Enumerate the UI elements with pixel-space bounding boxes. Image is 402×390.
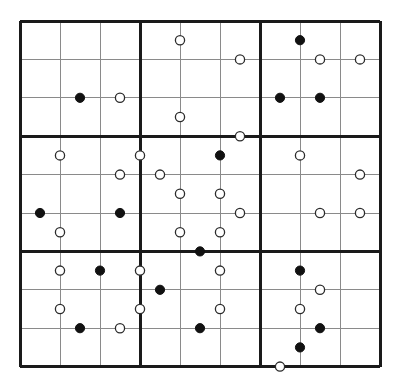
white-dot-45[interactable] (275, 362, 284, 371)
white-dot-29[interactable] (55, 266, 64, 275)
white-dot-3[interactable] (175, 112, 184, 121)
kropki-puzzle-container (0, 0, 402, 390)
black-dot-11[interactable] (275, 93, 284, 102)
white-dot-35[interactable] (135, 266, 144, 275)
black-dot-15[interactable] (35, 208, 44, 217)
white-dot-14[interactable] (155, 170, 164, 179)
white-dot-22[interactable] (215, 228, 224, 237)
white-dot-4[interactable] (235, 55, 244, 64)
white-dot-8[interactable] (315, 55, 324, 64)
white-dot-12[interactable] (55, 151, 64, 160)
black-dot-31[interactable] (155, 285, 164, 294)
black-dot-30[interactable] (95, 266, 104, 275)
dot-layer[interactable] (35, 36, 364, 372)
sudoku-grid-svg[interactable] (0, 0, 402, 390)
white-dot-17[interactable] (55, 228, 64, 237)
white-dot-13[interactable] (115, 170, 124, 179)
black-dot-18[interactable] (215, 151, 224, 160)
black-dot-7[interactable] (295, 36, 304, 45)
black-dot-40[interactable] (295, 266, 304, 275)
white-dot-38[interactable] (215, 304, 224, 313)
black-dot-0[interactable] (75, 93, 84, 102)
white-dot-9[interactable] (355, 55, 364, 64)
white-dot-19[interactable] (175, 189, 184, 198)
black-dot-10[interactable] (315, 93, 324, 102)
black-dot-43[interactable] (315, 324, 324, 333)
black-dot-44[interactable] (295, 343, 304, 352)
white-dot-25[interactable] (295, 151, 304, 160)
white-dot-20[interactable] (215, 189, 224, 198)
black-dot-39[interactable] (195, 324, 204, 333)
white-dot-26[interactable] (355, 170, 364, 179)
white-dot-23[interactable] (235, 208, 244, 217)
white-dot-32[interactable] (55, 304, 64, 313)
grid-thick-lines (20, 21, 380, 367)
white-dot-41[interactable] (315, 285, 324, 294)
white-dot-5[interactable] (135, 151, 144, 160)
white-dot-28[interactable] (355, 208, 364, 217)
white-dot-34[interactable] (115, 324, 124, 333)
white-dot-1[interactable] (115, 93, 124, 102)
white-dot-37[interactable] (215, 266, 224, 275)
grid-thin-lines (20, 21, 380, 367)
white-dot-6[interactable] (235, 132, 244, 141)
white-dot-42[interactable] (295, 304, 304, 313)
black-dot-24[interactable] (195, 247, 204, 256)
black-dot-33[interactable] (75, 324, 84, 333)
white-dot-27[interactable] (315, 208, 324, 217)
white-dot-21[interactable] (175, 228, 184, 237)
black-dot-16[interactable] (115, 208, 124, 217)
white-dot-36[interactable] (135, 304, 144, 313)
white-dot-2[interactable] (175, 36, 184, 45)
